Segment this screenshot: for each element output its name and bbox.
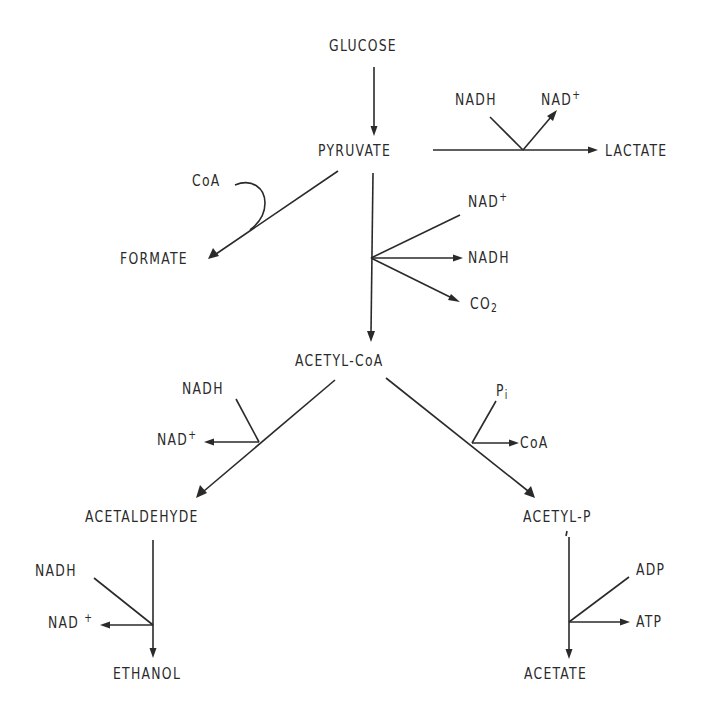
pi-input-line bbox=[472, 401, 496, 443]
node-acetaldehyde: ACETALDEHYDE bbox=[85, 509, 199, 525]
node-ethanol: ETHANOL bbox=[113, 666, 181, 682]
cofactor-nad-plus-pdh: NAD+ bbox=[468, 194, 507, 210]
cofactor-coa-formate: CoA bbox=[192, 173, 221, 189]
nad-input-line bbox=[371, 215, 460, 258]
node-glucose: GLUCOSE bbox=[329, 38, 397, 54]
arrow-acetaldehyde-ethanol bbox=[94, 540, 157, 658]
arrow-pyruvate-formate bbox=[208, 171, 338, 259]
node-formate: FORMATE bbox=[120, 251, 188, 267]
cofactor-adp-acetate: ADP bbox=[636, 562, 665, 578]
nadh-input-line bbox=[236, 399, 259, 442]
cofactor-coa-acetylp: CoA bbox=[520, 435, 549, 451]
cofactor-nad-plus-lactate: NAD+ bbox=[541, 92, 580, 108]
nadh-input-line bbox=[490, 117, 523, 150]
co2-output-line bbox=[371, 258, 452, 298]
arrow-acetylcoa-acetylp bbox=[386, 378, 535, 498]
cofactor-nadh-acetaldehyde: NADH bbox=[182, 381, 224, 397]
cofactor-pi-acetylp: Pi bbox=[496, 383, 507, 399]
node-acetyl-p: ACETYL-P bbox=[523, 509, 592, 525]
node-acetate: ACETATE bbox=[524, 666, 587, 682]
arrow-acetylp-acetate bbox=[566, 531, 631, 659]
arrow-pyruvate-lactate bbox=[433, 110, 598, 154]
cofactor-nadh-ethanol: NADH bbox=[35, 563, 77, 579]
cropped-caption-fragment bbox=[0, 711, 724, 718]
nadh-input-line bbox=[94, 578, 153, 625]
node-acetyl-coa: ACETYL-CoA bbox=[295, 353, 384, 369]
cofactor-nad-plus-acetaldehyde: NAD+ bbox=[157, 432, 196, 448]
adp-input-line bbox=[569, 577, 629, 622]
cofactor-atp-acetate: ATP bbox=[636, 614, 662, 630]
arrow-pyruvate-acetylcoa bbox=[367, 173, 463, 342]
arrow-glucose-pyruvate bbox=[371, 67, 378, 136]
node-lactate: LACTATE bbox=[605, 143, 667, 159]
cofactor-nadh-lactate: NADH bbox=[455, 92, 497, 108]
cofactor-nadh-pdh: NADH bbox=[468, 250, 510, 266]
node-pyruvate: PYRUVATE bbox=[318, 143, 391, 159]
nad-output-line bbox=[523, 117, 551, 150]
cofactor-co2-pdh: CO2 bbox=[470, 296, 497, 312]
cofactor-nad-plus-ethanol: NAD + bbox=[48, 615, 92, 631]
tick-mark bbox=[566, 531, 567, 536]
